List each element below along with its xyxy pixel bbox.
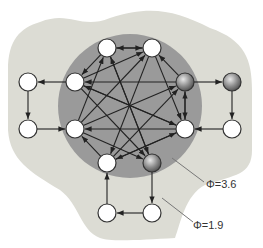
node-o3: [223, 73, 241, 91]
node-c6: [176, 120, 194, 138]
node-o2: [19, 120, 37, 138]
node-o4: [223, 120, 241, 138]
node-c2: [143, 39, 161, 57]
node-c1: [98, 39, 116, 57]
node-o1: [19, 73, 37, 91]
node-c8: [143, 154, 161, 172]
node-c7: [98, 154, 116, 172]
node-c3: [66, 73, 84, 91]
label-phi-outer: Φ=1.9: [193, 219, 224, 231]
node-c4: [176, 73, 194, 91]
network-diagram: Φ=3.6 Φ=1.9: [0, 0, 263, 248]
node-c5: [66, 120, 84, 138]
node-o5: [98, 204, 116, 222]
label-phi-inner: Φ=3.6: [206, 178, 237, 190]
node-o6: [143, 204, 161, 222]
